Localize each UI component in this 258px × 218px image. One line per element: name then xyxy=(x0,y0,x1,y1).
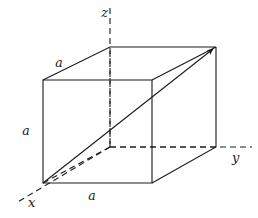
front-face-outline xyxy=(43,80,152,183)
left-edge-length-label: a xyxy=(22,123,29,138)
top-edge-length-label: a xyxy=(55,55,62,70)
z-axis-label: z xyxy=(100,5,108,20)
x-axis-label: x xyxy=(28,195,36,210)
cube-coordinate-diagram: z y x a a a xyxy=(0,0,258,218)
top-face-outline xyxy=(43,47,216,80)
coordinate-axes xyxy=(16,8,252,203)
y-axis-label: y xyxy=(231,150,240,165)
base-diagonal-edge xyxy=(43,147,110,183)
right-face-outline xyxy=(152,47,216,183)
bottom-edge-length-label: a xyxy=(88,188,95,203)
